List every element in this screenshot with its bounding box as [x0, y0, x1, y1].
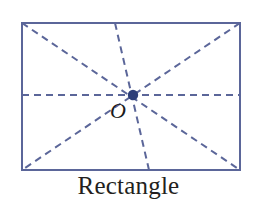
- center-point-dot: [128, 90, 138, 100]
- figure-page: O Rectangle: [0, 0, 257, 202]
- figure-caption: Rectangle: [0, 171, 257, 201]
- center-point-label: O: [110, 100, 126, 122]
